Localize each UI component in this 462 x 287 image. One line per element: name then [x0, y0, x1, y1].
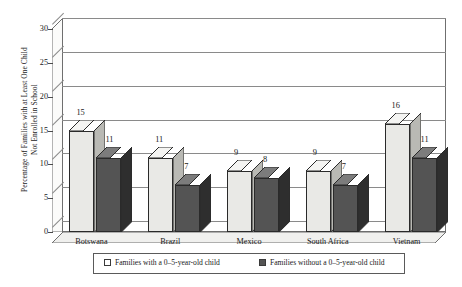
bar	[96, 158, 121, 232]
bar-side-face	[200, 174, 211, 232]
legend-label: Families with a 0–5-year-old child	[115, 258, 220, 267]
bar-top-face	[385, 113, 410, 124]
chart-figure: Percentage of Families with at Least One…	[0, 0, 462, 287]
bar-top-face	[306, 160, 331, 171]
bar	[69, 131, 94, 233]
legend-swatch-icon	[104, 259, 111, 266]
gridline-25	[62, 52, 446, 53]
x-tick-label-mexico: Mexico	[210, 238, 289, 246]
bar-value-label: 16	[392, 102, 400, 110]
bar-front-face	[333, 185, 358, 232]
bar	[175, 185, 200, 232]
legend-item-0[interactable]: Families with a 0–5-year-old child	[104, 258, 220, 267]
bar-value-label: 8	[263, 156, 267, 164]
bar-value-label: 7	[184, 163, 188, 171]
legend-swatch-icon	[259, 259, 266, 266]
bar-side-face	[279, 167, 290, 232]
x-tick-label-brazil: Brazil	[131, 238, 210, 246]
bar-value-label: 9	[234, 149, 238, 157]
x-tick-label-south-africa: South Africa	[288, 238, 367, 246]
y-tick-label-15: 15	[30, 127, 48, 135]
bar-front-face	[96, 158, 121, 232]
y-tick-mark-10	[48, 164, 53, 165]
y-axis-tick-labels: 302520151050	[28, 0, 48, 240]
bar	[254, 178, 279, 232]
bar-top-face	[412, 147, 437, 158]
y-tick-mark-15	[48, 131, 53, 132]
y-tick-label-20: 20	[30, 93, 48, 101]
x-tick-label-vietnam: Vietnam	[367, 238, 446, 246]
y-tick-label-0: 0	[30, 228, 48, 236]
bar-value-label: 15	[76, 109, 84, 117]
bar-side-face	[358, 174, 369, 232]
bar-top-face	[175, 174, 200, 185]
y-tick-mark-0	[48, 232, 53, 233]
bar-value-label: 9	[313, 149, 317, 157]
bar-front-face	[148, 158, 173, 232]
bar-top-face	[148, 147, 173, 158]
y-tick-mark-20	[48, 97, 53, 98]
bar	[227, 171, 252, 232]
bar-top-face	[333, 174, 358, 185]
bar-front-face	[412, 158, 437, 232]
y-tick-mark-30	[48, 29, 53, 30]
plot-area: 151111798971611	[52, 18, 446, 232]
bar-front-face	[306, 171, 331, 232]
y-tick-label-30: 30	[30, 25, 48, 33]
bar-top-face	[96, 147, 121, 158]
x-tick-label-botswana: Botswana	[52, 238, 131, 246]
bar	[412, 158, 437, 232]
gridline-20	[62, 86, 446, 87]
y-tick-label-5: 5	[30, 194, 48, 202]
bar-value-label: 11	[421, 136, 429, 144]
bar	[333, 185, 358, 232]
bar	[306, 171, 331, 232]
bar-value-label: 11	[105, 136, 113, 144]
bar-front-face	[69, 131, 94, 233]
bar-side-face	[121, 147, 132, 232]
bar-top-face	[227, 160, 252, 171]
bar-value-label: 11	[155, 136, 163, 144]
y-tick-label-10: 10	[30, 160, 48, 168]
bar	[385, 124, 410, 232]
y-tick-label-25: 25	[30, 59, 48, 67]
bar-front-face	[385, 124, 410, 232]
bar-front-face	[254, 178, 279, 232]
bar-top-face	[254, 167, 279, 178]
bar-top-face	[69, 120, 94, 131]
y-tick-mark-25	[48, 63, 53, 64]
legend-item-1[interactable]: Families without a 0–5-year-old child	[259, 258, 385, 267]
gridline-30	[62, 18, 446, 19]
chart-legend: Families with a 0–5-year-old childFamili…	[93, 253, 405, 274]
bar-value-label: 7	[342, 163, 346, 171]
bar	[148, 158, 173, 232]
bar-front-face	[227, 171, 252, 232]
bar-side-face	[437, 147, 448, 232]
legend-label: Families without a 0–5-year-old child	[270, 258, 385, 267]
y-tick-mark-5	[48, 198, 53, 199]
bar-front-face	[175, 185, 200, 232]
